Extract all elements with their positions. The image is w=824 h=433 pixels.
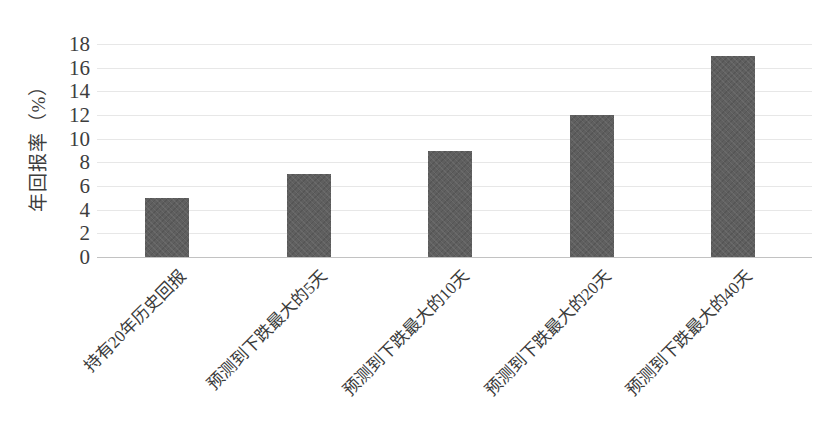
y-tick-label: 8 bbox=[38, 151, 90, 173]
bar bbox=[145, 198, 189, 257]
chart-figure: 年回报率（%） 024681012141618 持有20年历史回报预测到下跌最大… bbox=[0, 0, 824, 433]
y-tick-label: 0 bbox=[38, 246, 90, 268]
y-tick-label: 10 bbox=[38, 128, 90, 150]
y-tick-label: 14 bbox=[38, 80, 90, 102]
y-tick-label: 18 bbox=[38, 33, 90, 55]
x-category-label: 预测到下跌最大的40天 bbox=[623, 267, 756, 400]
y-tick-label: 4 bbox=[38, 199, 90, 221]
y-tick-label: 12 bbox=[38, 104, 90, 126]
bar bbox=[287, 174, 331, 257]
bar bbox=[428, 151, 472, 258]
gridline bbox=[97, 68, 812, 69]
x-category-label: 预测到下跌最大的20天 bbox=[481, 267, 614, 400]
x-axis-line bbox=[97, 257, 812, 258]
x-category-label: 预测到下跌最大的5天 bbox=[204, 267, 331, 394]
plot-area: 024681012141618 持有20年历史回报预测到下跌最大的5天预测到下跌… bbox=[0, 0, 824, 433]
y-tick-label: 6 bbox=[38, 175, 90, 197]
gridline bbox=[97, 44, 812, 45]
x-category-label: 预测到下跌最大的10天 bbox=[340, 267, 473, 400]
x-category-label: 持有20年历史回报 bbox=[81, 267, 190, 376]
gridline bbox=[97, 115, 812, 116]
bar bbox=[711, 56, 755, 257]
gridline bbox=[97, 91, 812, 92]
gridline bbox=[97, 139, 812, 140]
bar bbox=[570, 115, 614, 257]
y-tick-label: 2 bbox=[38, 222, 90, 244]
y-tick-label: 16 bbox=[38, 57, 90, 79]
